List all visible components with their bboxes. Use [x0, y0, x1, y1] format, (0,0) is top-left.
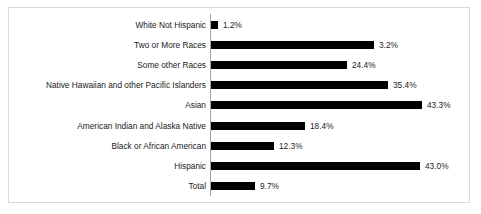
bar [211, 162, 420, 170]
bar-row: Some other Races24.4% [9, 54, 469, 75]
category-label: Black or African American [0, 141, 206, 151]
category-label: White Not Hispanic [0, 20, 206, 30]
bar-value-label: 43.0% [425, 161, 449, 171]
bar [211, 122, 305, 130]
bar-value-label: 18.4% [310, 121, 334, 131]
category-label: Hispanic [0, 161, 206, 171]
category-label: Two or More Races [0, 40, 206, 50]
bar [211, 182, 255, 190]
bar-row: Black or African American12.3% [9, 135, 469, 156]
bar [211, 142, 274, 150]
bar-and-value: 18.4% [211, 115, 334, 136]
bar [211, 101, 422, 109]
bar [211, 41, 374, 49]
bar [211, 61, 347, 69]
category-label: Some other Races [0, 60, 206, 70]
chart-frame: White Not Hispanic1.2%Two or More Races3… [8, 7, 470, 203]
bar-row: Asian43.3% [9, 95, 469, 116]
bar-and-value: 12.3% [211, 135, 303, 156]
bar [211, 81, 388, 89]
bar-row: Two or More Races3.2% [9, 34, 469, 55]
bar-and-value: 35.4% [211, 75, 417, 96]
bar-and-value: 1.2% [211, 14, 242, 35]
bar-value-label: 3.2% [379, 40, 398, 50]
bar-and-value: 43.3% [211, 95, 451, 116]
bar-row: Total9.7% [9, 176, 469, 197]
bar-and-value: 3.2% [211, 34, 398, 55]
category-label: American Indian and Alaska Native [0, 121, 206, 131]
category-label: Native Hawaiian and other Pacific Island… [0, 80, 206, 90]
bar-value-label: 1.2% [223, 20, 242, 30]
bar-and-value: 43.0% [211, 155, 449, 176]
bar-row: White Not Hispanic1.2% [9, 14, 469, 35]
bar-value-label: 9.7% [260, 181, 279, 191]
bar-row: American Indian and Alaska Native18.4% [9, 115, 469, 136]
bar-and-value: 9.7% [211, 176, 279, 197]
category-label: Total [0, 181, 206, 191]
bar-value-label: 35.4% [393, 80, 417, 90]
bar-row: Hispanic43.0% [9, 155, 469, 176]
bar-and-value: 24.4% [211, 54, 376, 75]
plot-area: White Not Hispanic1.2%Two or More Races3… [9, 8, 469, 202]
bar-value-label: 24.4% [352, 60, 376, 70]
bar [211, 21, 218, 29]
bar-value-label: 12.3% [279, 141, 303, 151]
category-label: Asian [0, 100, 206, 110]
bar-value-label: 43.3% [427, 100, 451, 110]
bar-row: Native Hawaiian and other Pacific Island… [9, 75, 469, 96]
